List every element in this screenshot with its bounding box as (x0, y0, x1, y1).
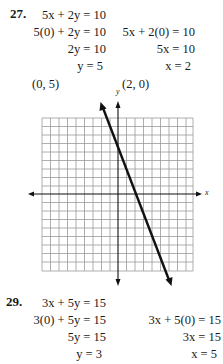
equation-29-line2: 3(0) + 5y = 15 (34, 314, 106, 327)
x-axis-arrow-right (196, 192, 202, 197)
x-axis-label: x (205, 188, 209, 197)
problem-number-29: 29. (6, 294, 22, 310)
equation-29-right2: 3x = 15 (183, 331, 221, 344)
graph-svg (0, 0, 223, 364)
axes (30, 104, 200, 283)
y-axis-arrow-up (116, 101, 121, 108)
equation-29-line3: 5y = 15 (68, 331, 106, 344)
equation-29-right1: 3x + 5(0) = 15 (149, 314, 221, 327)
line-arrow-bottom (166, 277, 173, 286)
equation-29-line1: 3x + 5y = 15 (42, 297, 106, 310)
x-axis-arrow-left (28, 192, 34, 197)
equation-29-right3: x = 5 (191, 348, 217, 361)
y-axis-label: y (116, 87, 120, 96)
line-arrow-top (100, 102, 107, 111)
equation-29-line4: y = 3 (76, 348, 102, 361)
y-axis-arrow-down (116, 279, 121, 286)
